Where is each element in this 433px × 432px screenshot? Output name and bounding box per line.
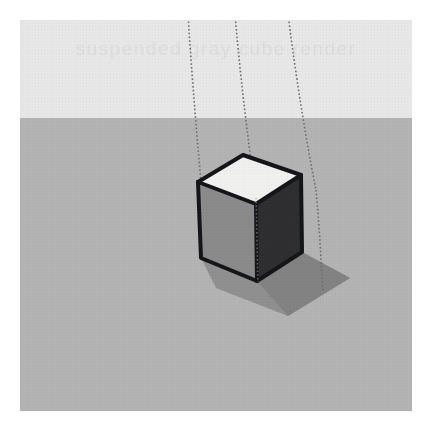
- render-area: suspended gray cube render: [20, 20, 412, 411]
- cube-edge-front-vertical: [256, 204, 257, 281]
- cube-scene-svg: [20, 20, 412, 411]
- image-canvas: suspended gray cube render: [0, 0, 433, 432]
- gray-cube: [198, 155, 302, 281]
- string-right-icon: [288, 20, 316, 190]
